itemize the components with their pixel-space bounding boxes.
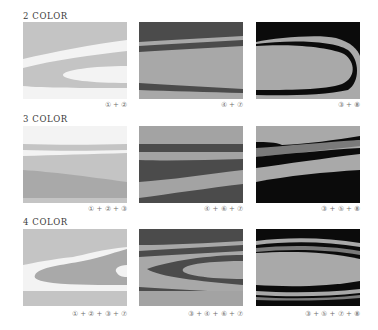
swatch-panel-1-2-3: [23, 126, 127, 203]
swatch-panel-3-5-8: [256, 126, 360, 203]
panel-caption: ③ + ⑧: [256, 101, 360, 110]
panel-caption: ① + ②: [23, 101, 127, 110]
row-title-2-color: 2 COLOR: [23, 11, 68, 21]
row-title-3-color: 3 COLOR: [23, 114, 68, 124]
panel-caption: ① + ② + ③: [23, 205, 127, 214]
swatch-panel-1-2-3-7: [23, 229, 127, 306]
panel-caption: ④ + ⑦: [139, 101, 243, 110]
wave-pattern-graphic: [139, 229, 243, 306]
row-title-4-color: 4 COLOR: [23, 217, 68, 227]
wave-pattern-graphic: [256, 126, 360, 203]
panel-caption: ① + ② + ③ + ⑦: [23, 310, 127, 319]
wave-pattern-graphic: [139, 126, 243, 203]
wave-pattern-graphic: [23, 126, 127, 203]
wave-pattern-graphic: [23, 229, 127, 306]
wave-pattern-graphic: [256, 229, 360, 306]
panel-caption: ③ + ⑤ + ⑧: [256, 205, 360, 214]
wave-pattern-graphic: [256, 22, 360, 99]
swatch-panel-1-2: [23, 22, 127, 99]
swatch-panel-3-4-6-7: [139, 229, 243, 306]
panel-caption: ③ + ④ + ⑥ + ⑦: [139, 310, 243, 319]
swatch-panel-4-7: [139, 22, 243, 99]
swatch-panel-4-6-7: [139, 126, 243, 203]
panel-caption: ③ + ⑤ + ⑦ + ⑧: [256, 310, 360, 319]
swatch-panel-3-8: [256, 22, 360, 99]
panel-caption: ④ + ⑥ + ⑦: [139, 205, 243, 214]
wave-pattern-graphic: [23, 22, 127, 99]
swatch-panel-3-5-7-8: [256, 229, 360, 306]
wave-pattern-graphic: [139, 22, 243, 99]
